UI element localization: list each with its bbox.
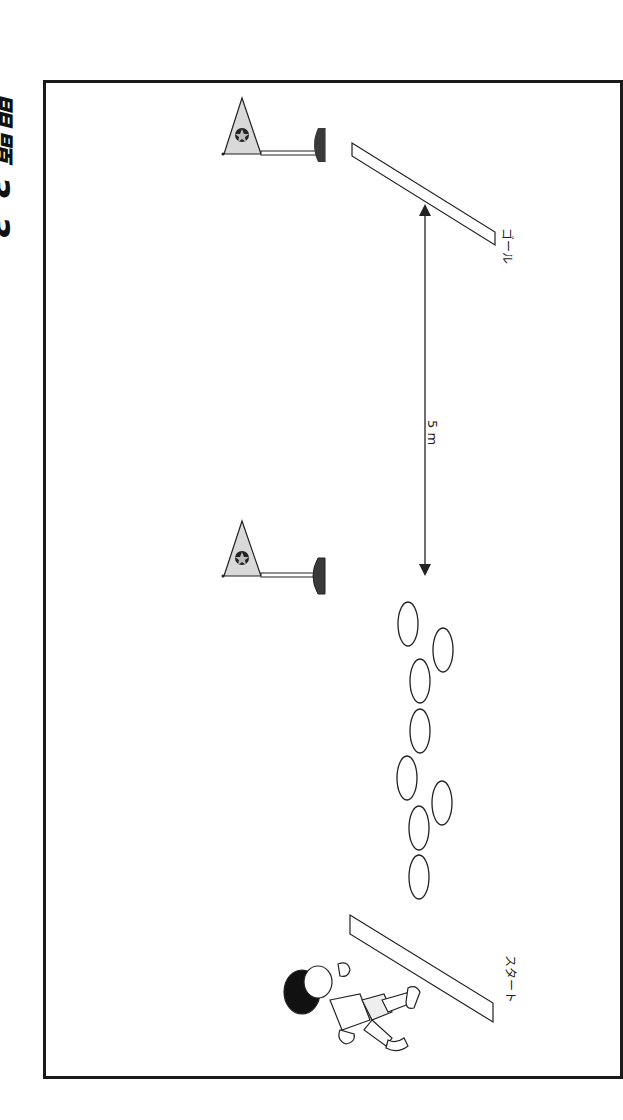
hoop-icon <box>410 659 430 703</box>
goal-label: ゴール <box>500 228 517 264</box>
distance-label: 5 m <box>425 420 440 445</box>
running-child-icon <box>284 963 420 1051</box>
start-label: スタート <box>503 955 520 1003</box>
hoop-icon <box>432 781 452 825</box>
goal-flag-icon <box>222 98 326 162</box>
hoop-icon <box>409 806 429 850</box>
hoop-icon <box>409 855 429 899</box>
goal-line <box>352 143 495 245</box>
hoops <box>397 602 453 899</box>
distance-arrow <box>419 204 431 576</box>
middle-flag-icon <box>222 521 326 594</box>
hoop-icon <box>398 602 418 646</box>
hoop-icon <box>397 756 417 800</box>
hoop-icon <box>410 709 430 753</box>
hoop-icon <box>433 628 453 672</box>
